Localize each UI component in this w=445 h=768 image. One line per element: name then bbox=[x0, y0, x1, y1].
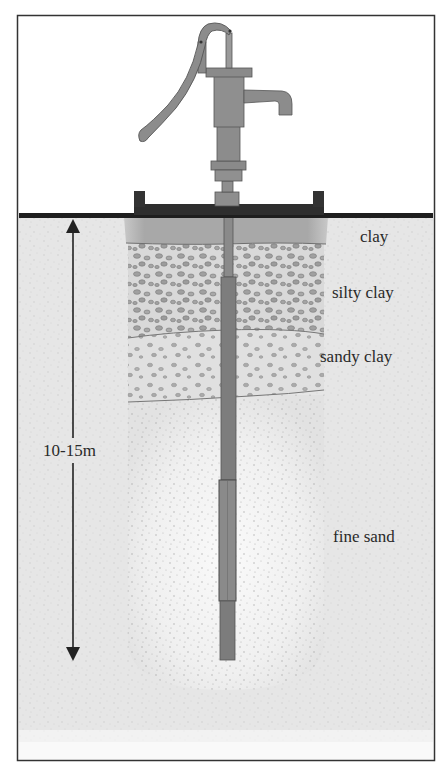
layer-label-fine-sand: fine sand bbox=[333, 527, 395, 546]
well-diagram: 10-15m clay silty clay sandy clay fine s… bbox=[0, 0, 445, 768]
depth-label: 10-15m bbox=[43, 441, 96, 460]
well-pipe bbox=[219, 217, 236, 660]
layer-label-silty-clay: silty clay bbox=[332, 283, 394, 302]
layer-label-sandy-clay: sandy clay bbox=[320, 347, 393, 366]
sump-pipe bbox=[220, 601, 235, 660]
layer-label-clay: clay bbox=[360, 227, 389, 246]
